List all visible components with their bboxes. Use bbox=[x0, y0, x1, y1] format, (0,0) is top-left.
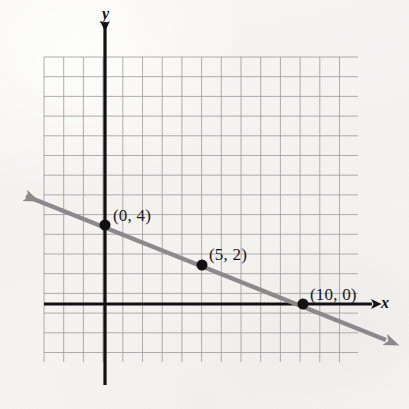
point-label-5-2: (5, 2) bbox=[209, 245, 247, 265]
data-point bbox=[298, 299, 309, 310]
point-label-0-4: (0, 4) bbox=[113, 206, 151, 226]
y-axis-label: y bbox=[102, 5, 109, 23]
graph-figure: y x (0, 4) (5, 2) (10, 0) bbox=[0, 0, 409, 409]
x-axis-label: x bbox=[381, 294, 389, 312]
data-point bbox=[100, 220, 111, 231]
data-point bbox=[197, 260, 208, 271]
coordinate-plane-svg bbox=[0, 0, 409, 409]
grid bbox=[44, 57, 358, 362]
point-label-10-0: (10, 0) bbox=[310, 285, 357, 305]
